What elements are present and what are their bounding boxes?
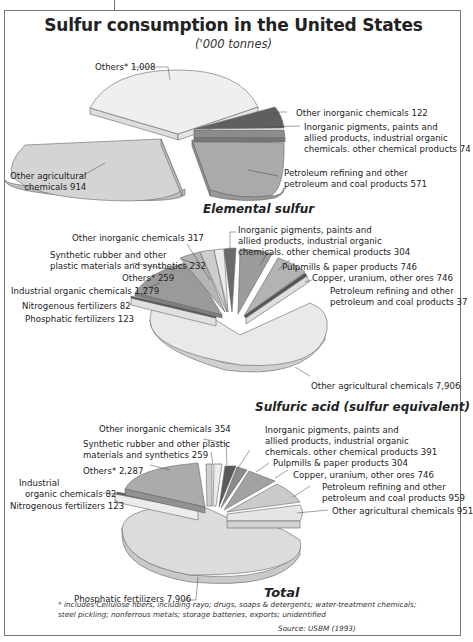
label-elemental-petroleum: Petroleum refining and other petroleum a… (284, 168, 427, 190)
label-sulfuric-pigments: Inorganic pigments, paints and allied pr… (238, 225, 410, 258)
label-sulfuric-industrial-organic: Industrial organic chemicals 1,279 (11, 286, 159, 297)
label-sulfuric-others: Others* 259 (122, 273, 174, 284)
pie-total (115, 463, 303, 583)
label-total-nitrogenous: Nitrogenous fertilizers 123 (10, 501, 124, 512)
label-sulfuric-agricultural: Other agricultural chemicals 7,906 (311, 381, 460, 392)
label-total-rubber: Synthetic rubber and other plastic mater… (83, 439, 230, 461)
label-sulfuric-phosphatic: Phosphatic fertilizers 123 (25, 314, 134, 325)
label-total-agricultural: Other agricultural chemicals 951 (332, 506, 473, 517)
source-note: Source: USBM (1993) (278, 624, 356, 633)
label-total-petroleum: Petroleum refining and other petroleum a… (322, 482, 465, 504)
label-total-pigments: Inorganic pigments, paints and allied pr… (265, 425, 437, 458)
label-total-industrial-organic: Industrial organic chemicals 82 (19, 478, 116, 500)
label-total-pulpmills: Pulpmills & paper products 304 (273, 458, 408, 469)
label-sulfuric-petroleum: Petroleum refining and other petroleum a… (330, 286, 467, 308)
label-sulfuric-pulpmills: Pulpmills & paper products 746 (282, 262, 417, 273)
section-title-sulfuric: Sulfuric acid (sulfur equivalent) (255, 400, 470, 414)
label-total-copper: Copper, uranium, other ores 746 (293, 470, 434, 481)
label-sulfuric-copper: Copper, uranium, other ores 746 (312, 273, 453, 284)
label-elemental-pigments: Inorganic pigments, paints and allied pr… (304, 122, 471, 155)
label-elemental-others: Others* 1,008 (95, 62, 156, 73)
section-title-total: Total (264, 585, 300, 600)
label-elemental-other-inorganic: Other inorganic chemicals 122 (296, 108, 428, 119)
section-title-elemental: Elemental sulfur (203, 202, 314, 216)
label-sulfuric-other-inorganic: Other inorganic chemicals 317 (72, 233, 204, 244)
label-elemental-agricultural: Other agricultural chemicals 914 (10, 171, 86, 193)
label-total-others: Others* 2,287 (83, 466, 144, 477)
label-sulfuric-nitrogenous: Nitrogenous fertilizers 82 (22, 301, 131, 312)
label-sulfuric-rubber: Synthetic rubber and other plastic mater… (50, 250, 206, 272)
label-total-other-inorganic: Other inorganic chemicals 354 (99, 424, 231, 435)
footnote: * includes Cellulose fibers, including r… (58, 600, 428, 620)
